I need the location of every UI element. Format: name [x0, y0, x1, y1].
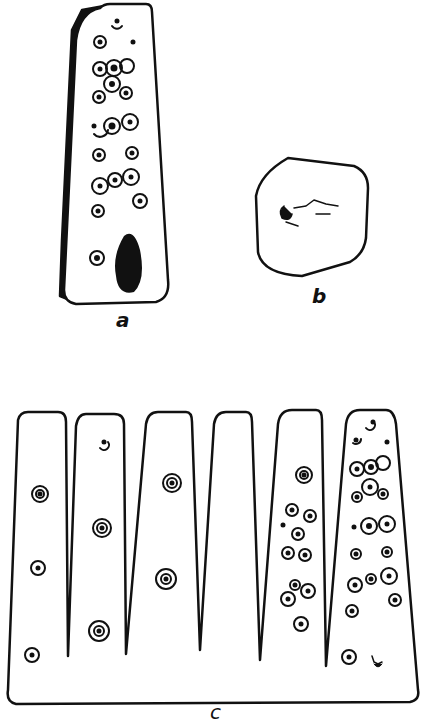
figure-a-label: a: [116, 308, 130, 332]
figure-b-object: [256, 158, 368, 276]
figure-c-pattern: [8, 410, 419, 704]
figure-c-label: c: [210, 700, 221, 724]
figure-a-object: [60, 4, 168, 304]
figure-canvas: [0, 0, 429, 726]
figure-b-label: b: [312, 284, 326, 308]
